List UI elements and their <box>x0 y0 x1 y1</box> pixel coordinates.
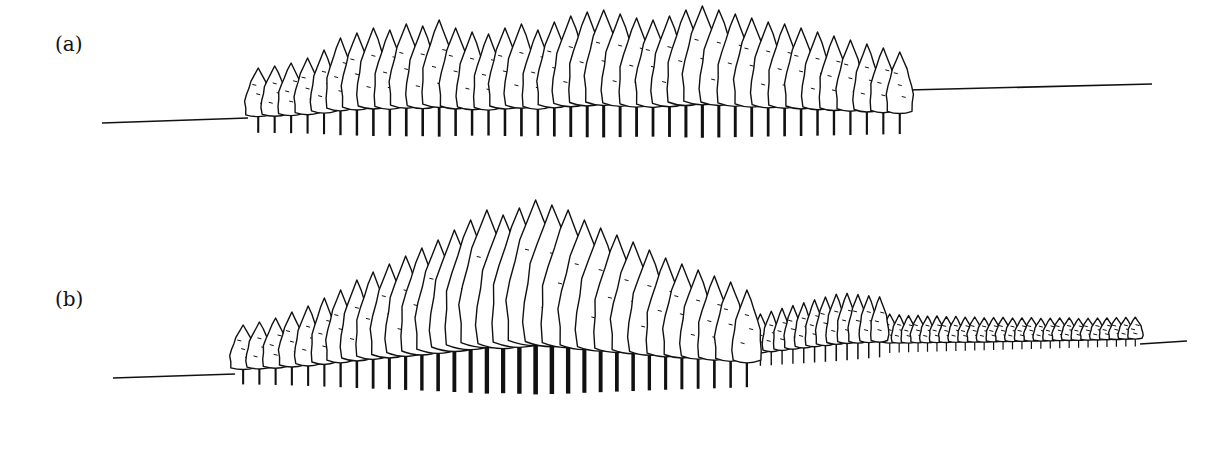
tree-stand-illustration <box>0 0 1230 455</box>
